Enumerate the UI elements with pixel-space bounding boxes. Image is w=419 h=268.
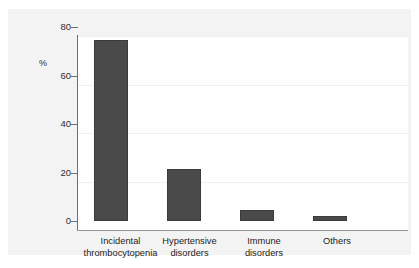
y-tick-20: 20 <box>41 168 71 178</box>
y-tick-mark-60 <box>71 76 78 77</box>
y-tick-label-20: 20 <box>45 168 71 178</box>
y-tick-label-80: 80 <box>45 22 71 32</box>
y-tick-label-60: 60 <box>45 71 71 81</box>
gridline-80 <box>78 36 408 37</box>
y-tick-60: 60 <box>41 71 71 81</box>
figure-panel: % 80 60 40 20 0 Incidental thrombocytope… <box>8 9 411 255</box>
bar-incidental-thrombocytopenia[interactable] <box>94 40 128 221</box>
x-category-label-2-line-1: disorders <box>203 248 325 260</box>
bar-hypertensive-disorders[interactable] <box>167 169 201 221</box>
y-tick-label-40: 40 <box>45 119 71 129</box>
y-tick-mark-40 <box>71 124 78 125</box>
bar-others[interactable] <box>313 216 347 221</box>
y-axis-title: % <box>39 58 47 68</box>
x-category-label-3: Others <box>276 236 398 248</box>
y-axis-line <box>77 35 78 231</box>
y-tick-40: 40 <box>41 119 71 129</box>
bar-immune-disorders[interactable] <box>240 210 274 221</box>
y-tick-mark-20 <box>71 173 78 174</box>
x-axis-line <box>77 230 408 231</box>
y-tick-0: 0 <box>41 216 71 226</box>
y-tick-label-0: 0 <box>45 216 71 226</box>
y-tick-mark-0 <box>71 221 78 222</box>
x-category-label-3-line-0: Others <box>276 236 398 248</box>
y-tick-mark-80 <box>71 27 78 28</box>
y-tick-80: 80 <box>41 22 71 32</box>
